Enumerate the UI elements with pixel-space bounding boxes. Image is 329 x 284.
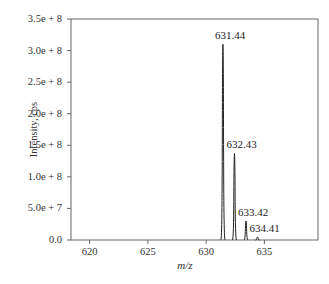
axes-frame (67, 19, 318, 244)
y-tick-label: 5.0e + 7 (0, 202, 62, 214)
x-tick-label: 620 (75, 246, 105, 258)
y-axis-label: Intensity, cps (28, 85, 39, 175)
mass-spectrum-chart: 0.05.0e + 71.0e + 81.5e + 82.0e + 82.5e … (0, 0, 329, 284)
peak-label: 633.42 (238, 206, 268, 218)
x-tick-label: 630 (191, 246, 221, 258)
x-tick-label: 625 (133, 246, 163, 258)
peak-label: 631.44 (215, 29, 245, 41)
peak-trace (244, 221, 248, 240)
peak-label: 632.43 (226, 138, 256, 150)
peak-trace (232, 153, 236, 240)
y-tick-label: 3.0e + 8 (0, 45, 62, 57)
x-axis-label: m/z (165, 259, 205, 271)
y-tick-label: 0.0 (0, 234, 62, 246)
x-tick-label: 635 (249, 246, 279, 258)
y-tick-label: 3.5e + 8 (0, 13, 62, 25)
peak-label: 634.41 (250, 222, 280, 234)
peak-trace (221, 44, 225, 240)
axes-box (71, 19, 318, 240)
